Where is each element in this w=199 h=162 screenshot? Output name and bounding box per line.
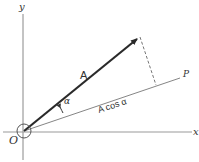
vector-a-arrow: [24, 39, 137, 131]
line-p-label: P: [182, 69, 190, 79]
projection-dashed-line: [140, 37, 156, 85]
y-axis-label: y: [18, 1, 25, 12]
x-axis-label: x: [193, 126, 199, 137]
projection-label: A cos α: [97, 96, 128, 115]
vector-a-label: A: [80, 69, 88, 81]
vector-projection-diagram: y x O A α A cos α P: [0, 0, 199, 162]
angle-arc-icon: [60, 107, 63, 113]
origin-label: O: [9, 134, 18, 147]
angle-label: α: [64, 96, 70, 106]
